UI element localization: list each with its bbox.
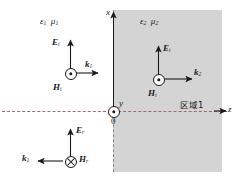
- incident-e-label: Ei: [52, 38, 60, 48]
- vector-arrows-layer: [0, 0, 239, 193]
- axis-label-x: x: [106, 8, 110, 17]
- axis-label-z: z: [228, 105, 232, 114]
- transmitted-h-label: Ht: [148, 89, 157, 99]
- incident-k-label: k1: [85, 60, 92, 70]
- origin-label: 0: [111, 117, 116, 126]
- incident-h-out-of-page-icon: [65, 68, 77, 80]
- reflected-e-label: Er: [76, 126, 84, 136]
- reflected-h-label: Hr: [79, 155, 88, 165]
- reflected-h-into-page-icon: [65, 156, 77, 168]
- incident-h-label: Hi: [53, 83, 62, 93]
- region2-material-constants: ε2 μ2: [140, 17, 158, 27]
- transmitted-e-label: Et: [163, 44, 171, 54]
- axis-label-y: y: [119, 99, 123, 108]
- region-tag-label: 区域1: [180, 101, 203, 110]
- region1-material-constants: ε1 μ1: [40, 17, 58, 27]
- transmitted-k-label: k2: [194, 68, 201, 78]
- physics-diagram-canvas: x y z 0 ε1 μ1 ε2 μ2 区域1 Ei k1 Hi Et k2 H…: [0, 0, 239, 193]
- reflected-k-label: k1: [22, 154, 29, 164]
- transmitted-h-out-of-page-icon: [153, 74, 165, 86]
